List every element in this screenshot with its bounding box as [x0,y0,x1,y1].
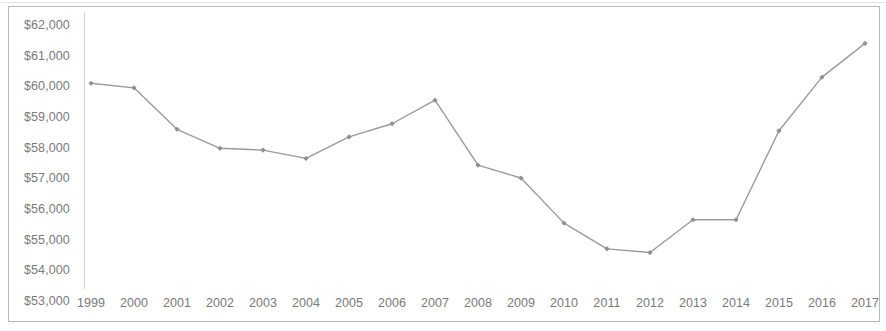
x-axis-tick-label: 2002 [206,296,234,310]
data-point-marker [647,250,652,255]
x-axis-tick-label: 2017 [851,296,879,310]
x-axis-tick-label: 2011 [593,296,620,310]
line-series [0,0,886,331]
y-axis-tick-label: $55,000 [24,233,70,247]
y-axis-tick-label: $56,000 [24,202,70,216]
x-axis-tick-label: 2001 [163,296,191,310]
x-axis-tick-label: 2003 [249,296,277,310]
data-point-marker [217,146,222,151]
y-axis-tick-label: $59,000 [24,110,70,124]
x-axis-tick-label: 2006 [378,296,406,310]
y-axis-tick-label: $53,000 [24,294,70,308]
x-axis-tick-label: 2012 [636,296,664,310]
x-axis-tick-label: 2015 [765,296,793,310]
y-axis-tick-label: $57,000 [24,171,70,185]
x-axis-tick-label: 1999 [77,296,105,310]
x-axis-tick-label: 2004 [292,296,320,310]
data-point-marker [733,217,738,222]
data-point-marker [776,128,781,133]
series-markers [88,41,867,255]
data-point-marker [862,41,867,46]
y-axis-line [84,12,85,289]
data-point-marker [475,163,480,168]
chart-root: $62,000$61,000$60,000$59,000$58,000$57,0… [0,0,886,331]
x-axis-tick-label: 2000 [120,296,148,310]
x-axis-tick-label: 2005 [335,296,363,310]
data-point-marker [518,175,523,180]
data-point-marker [561,221,566,226]
data-point-marker [88,81,93,86]
x-axis-tick-label: 2009 [507,296,535,310]
data-point-marker [604,246,609,251]
x-axis-tick-label: 2013 [679,296,707,310]
series-polyline [91,43,865,252]
data-point-marker [174,127,179,132]
y-axis-tick-label: $54,000 [24,263,70,277]
y-axis-tick-label: $62,000 [24,18,70,32]
data-point-marker [389,121,394,126]
data-point-marker [131,85,136,90]
x-axis-tick-label: 2014 [722,296,750,310]
data-point-marker [303,156,308,161]
x-axis-tick-label: 2008 [464,296,492,310]
data-point-marker [432,98,437,103]
data-point-marker [346,134,351,139]
x-axis-tick-label: 2010 [550,296,578,310]
y-axis-tick-label: $60,000 [24,79,70,93]
data-point-marker [690,217,695,222]
plot-area: $62,000$61,000$60,000$59,000$58,000$57,0… [0,0,886,331]
y-axis-tick-label: $58,000 [24,141,70,155]
y-axis-tick-label: $61,000 [24,49,70,63]
data-point-marker [260,148,265,153]
data-point-marker [819,75,824,80]
x-axis-tick-label: 2007 [421,296,449,310]
x-axis-tick-label: 2016 [808,296,836,310]
